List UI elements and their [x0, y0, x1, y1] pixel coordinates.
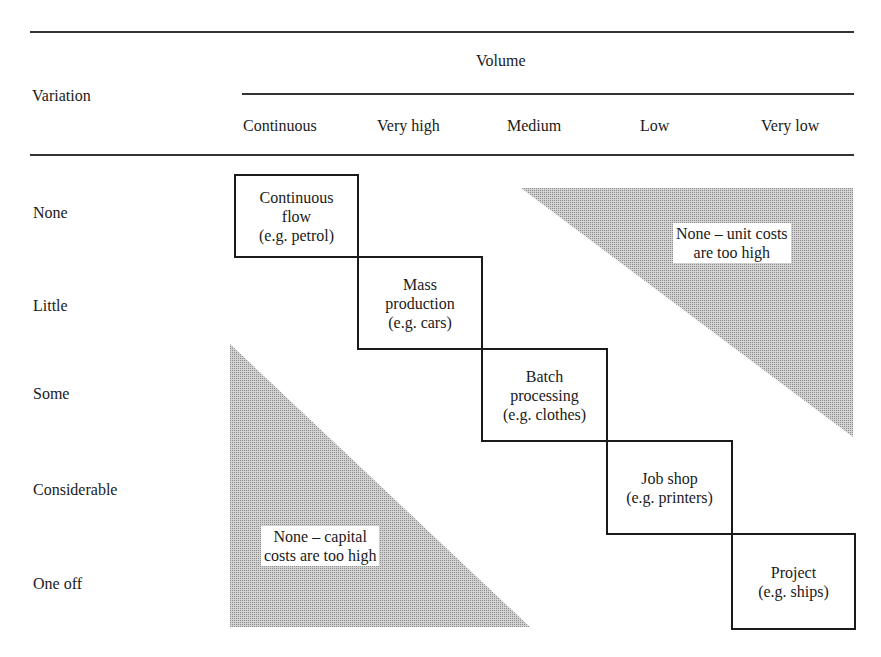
cell-batch-processing: Batch processing (e.g. clothes)	[481, 348, 608, 442]
cell-line: (e.g. petrol)	[259, 226, 334, 245]
cell-line: (e.g. ships)	[758, 582, 829, 601]
upper-right-note-line2: are too high	[676, 243, 788, 262]
cell-line: Mass	[403, 275, 437, 294]
cell-line: Project	[771, 563, 816, 582]
cell-line: processing	[510, 386, 578, 405]
cell-line: (e.g. printers)	[626, 488, 713, 507]
cell-line: production	[385, 294, 454, 313]
cell-project: Project (e.g. ships)	[731, 533, 856, 630]
lower-left-note-line1: None – capital	[264, 527, 376, 546]
upper-right-note-line1: None – unit costs	[676, 224, 788, 243]
upper-right-note: None – unit costs are too high	[673, 223, 791, 263]
lower-left-note-line2: costs are too high	[264, 546, 376, 565]
cell-job-shop: Job shop (e.g. printers)	[606, 440, 733, 535]
cell-line: Continuous	[260, 188, 334, 207]
cell-line: Job shop	[641, 469, 697, 488]
cell-line: Batch	[526, 367, 563, 386]
cell-line: (e.g. clothes)	[503, 405, 586, 424]
cell-mass-production: Mass production (e.g. cars)	[357, 256, 483, 350]
cell-continuous-flow: Continuous flow (e.g. petrol)	[234, 174, 359, 258]
cell-line: (e.g. cars)	[388, 313, 452, 332]
lower-left-note: None – capital costs are too high	[261, 526, 379, 566]
cell-line: flow	[282, 207, 311, 226]
